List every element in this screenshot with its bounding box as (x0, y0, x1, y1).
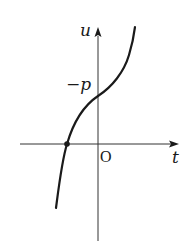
origin-label: O (100, 149, 112, 165)
function-graph (0, 0, 193, 246)
u-axis-label: u (80, 22, 91, 39)
root-point (64, 141, 70, 147)
u-axis-arrow-icon (95, 27, 102, 37)
t-axis-label: t (172, 149, 179, 166)
function-curve (56, 27, 135, 208)
u-intercept-label: −p (66, 76, 91, 93)
